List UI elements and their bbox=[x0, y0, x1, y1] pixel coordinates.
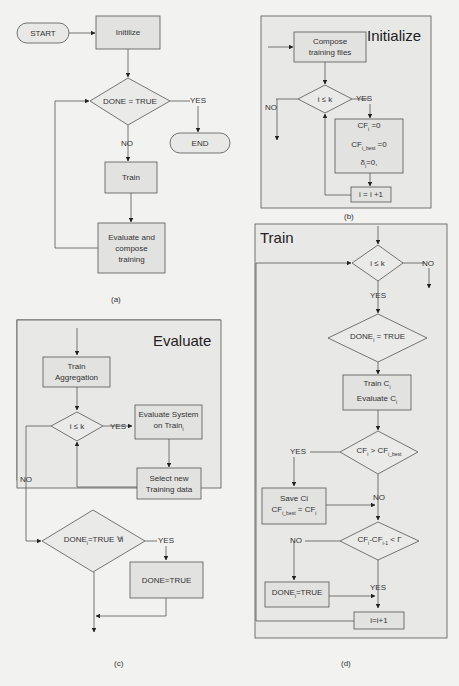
cf-i-assign: CFi =0 bbox=[357, 118, 380, 137]
done-i-decision: DONEi = TRUE bbox=[328, 314, 427, 362]
save-ci-box: Save Ci CFi_best = CFi bbox=[262, 488, 326, 524]
cf-text: > CF bbox=[368, 446, 388, 455]
subscript: i_best bbox=[282, 510, 295, 516]
subscript: i_best bbox=[362, 144, 375, 150]
end-label: END bbox=[192, 138, 209, 149]
evaluate-text: Evaluate C bbox=[357, 394, 396, 403]
yes-label: YES bbox=[370, 583, 386, 593]
decision-label: i ≤ k bbox=[318, 94, 333, 105]
cf-compare-decision: CFi > CFi_best bbox=[340, 431, 418, 474]
save-line1: Save Ci bbox=[280, 493, 308, 504]
train-aggregation-box: Train Aggregation bbox=[43, 357, 110, 387]
cf-best-assign: CFi_best =0 bbox=[351, 137, 386, 156]
train-line: Train Ci bbox=[363, 378, 390, 393]
subscript: i bbox=[389, 384, 390, 390]
subscript: i_best bbox=[388, 451, 401, 457]
done-rest: =TRUE ∀i bbox=[88, 535, 123, 544]
evaluate-line: Evaluate Ci bbox=[357, 393, 397, 408]
evaluate-compose-box: Evaluate and compose training bbox=[98, 223, 165, 273]
done-text: DONE bbox=[64, 535, 87, 544]
increment-box: i=i+1 bbox=[354, 612, 404, 629]
done-decision: DONE = TRUE bbox=[90, 78, 170, 125]
caption-d: (d) bbox=[341, 659, 351, 668]
done-text: DONE bbox=[350, 332, 373, 341]
done-true-label: DONE=TRUE bbox=[142, 575, 192, 586]
select-training-box: Select new Training data bbox=[137, 468, 201, 499]
yes-label: YES bbox=[356, 94, 372, 104]
train-text: Train C bbox=[363, 379, 389, 388]
yes-label: YES bbox=[290, 447, 306, 457]
cf-text: = CF bbox=[296, 505, 316, 514]
assign-value: =0 bbox=[375, 140, 386, 149]
done-i-true-box: DONEi=TRUE bbox=[265, 582, 329, 607]
aggregation-line2: Aggregation bbox=[55, 372, 98, 383]
done-decision-label: DONE = TRUE bbox=[103, 96, 157, 107]
done-rest: =TRUE bbox=[296, 588, 322, 597]
increment-label: i = i +1 bbox=[359, 189, 383, 200]
save-line2: CFi_best = CFi bbox=[272, 504, 317, 519]
cf-diff-label: CFi-CFi-1 < Γ bbox=[357, 534, 401, 549]
subscript: i bbox=[315, 510, 316, 516]
decision-label: i ≤ k bbox=[70, 421, 85, 432]
eval-text: on Train bbox=[153, 421, 182, 430]
no-label: NO bbox=[20, 475, 32, 485]
cf-text: CF bbox=[351, 140, 362, 149]
evaluate-line1: Evaluate and bbox=[108, 232, 155, 243]
done-i-label: DONEi = TRUE bbox=[350, 331, 405, 346]
panel-b-title: Initialize bbox=[367, 27, 421, 44]
initialize-label: Initilize bbox=[116, 27, 140, 38]
eval-line2: on Traini bbox=[153, 420, 183, 435]
aggregation-line1: Train bbox=[68, 361, 86, 372]
yes-label: YES bbox=[370, 291, 386, 301]
no-label: NO bbox=[265, 103, 277, 113]
done-rest: = TRUE bbox=[374, 332, 405, 341]
subscript: i bbox=[396, 398, 397, 404]
no-label: NO bbox=[121, 139, 133, 149]
increment-box: i = i +1 bbox=[351, 187, 391, 202]
no-label: NO bbox=[290, 536, 302, 546]
i-le-k-decision: i ≤ k bbox=[298, 85, 352, 113]
train-box: Train bbox=[105, 162, 157, 193]
start-label: START bbox=[30, 28, 55, 39]
cf-diff-decision: CFi-CFi-1 < Γ bbox=[340, 522, 419, 560]
cf-text: CF bbox=[272, 505, 283, 514]
start-terminal: START bbox=[17, 23, 69, 43]
initialize-box: Initilize bbox=[96, 16, 160, 49]
done-i-true-label: DONEi=TRUE bbox=[272, 587, 323, 602]
select-line2: Training data bbox=[146, 484, 192, 495]
caption-b: (b) bbox=[344, 212, 354, 221]
yes-label: YES bbox=[190, 96, 206, 106]
assign-value: =0 bbox=[369, 121, 380, 130]
assign-value: =0, bbox=[366, 158, 377, 167]
cf-text: CF bbox=[357, 446, 368, 455]
i-le-k-decision: i ≤ k bbox=[51, 412, 103, 441]
compose-line2: training files bbox=[309, 47, 352, 58]
decision-label: i ≤ k bbox=[370, 258, 385, 269]
compose-line1: Compose bbox=[313, 36, 347, 47]
panel-c-title: Evaluate bbox=[153, 332, 211, 349]
caption-c: (c) bbox=[114, 659, 123, 668]
select-line1: Select new bbox=[149, 473, 188, 484]
train-label: Train bbox=[122, 172, 140, 183]
cf-compare-label: CFi > CFi_best bbox=[357, 445, 402, 460]
done-text: DONE bbox=[272, 588, 295, 597]
delta-assign: δi=0, bbox=[361, 155, 378, 174]
done-all-label: DONEi=TRUE ∀i bbox=[64, 534, 124, 549]
no-label: NO bbox=[373, 493, 385, 503]
evaluate-line3: training bbox=[118, 254, 144, 265]
cf-text: CF bbox=[357, 535, 368, 544]
threshold: < Γ bbox=[388, 535, 402, 544]
caption-a: (a) bbox=[111, 295, 121, 304]
compose-training-box: Compose training files bbox=[294, 32, 366, 62]
init-values-box: CFi =0 CFi_best =0 δi=0, bbox=[335, 119, 403, 173]
yes-label: YES bbox=[158, 536, 174, 546]
i-le-k-decision: i ≤ k bbox=[352, 245, 403, 281]
train-evaluate-box: Train Ci Evaluate Ci bbox=[343, 375, 411, 410]
panel-d-title: Train bbox=[260, 229, 294, 246]
subscript: i bbox=[182, 426, 183, 432]
eval-line1: Evaluate System bbox=[138, 409, 198, 420]
done-true-box: DONE=TRUE bbox=[130, 562, 203, 598]
increment-label: i=i+1 bbox=[370, 615, 387, 626]
yes-label: YES bbox=[110, 422, 126, 432]
evaluate-line2: compose bbox=[115, 243, 147, 254]
